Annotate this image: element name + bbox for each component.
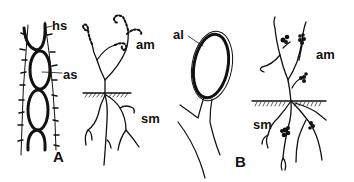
substrate-root-right-branch: [126, 130, 139, 147]
hypha-left-upper: [180, 97, 204, 118]
aerial-stem-right: [105, 30, 128, 80]
aleuriospore-oval-inner: [189, 32, 234, 101]
label-sm-b: sm: [253, 117, 272, 132]
mycelium-a: [83, 15, 141, 165]
label-sm-a: sm: [141, 111, 160, 126]
substrate-b-middle-branch: [283, 158, 286, 170]
label-hs: hs: [52, 18, 67, 33]
spore-chain: [18, 22, 62, 155]
spore-oval-2: [28, 90, 48, 130]
label-as: as: [63, 67, 77, 82]
as-leader-line: [42, 72, 62, 73]
hypha-left-lower: [178, 122, 205, 178]
label-am-b: am: [316, 47, 335, 62]
sheath-left-line: [21, 25, 28, 155]
spore-chain-middle: [115, 43, 126, 50]
spore-oval-1: [30, 51, 50, 89]
aerial-stem-b-right: [288, 22, 306, 80]
spore-chain-right: [127, 30, 141, 36]
panel-label-b: B: [235, 153, 246, 170]
spore-chain-top: [114, 15, 128, 30]
aleuriospore-b: [178, 28, 238, 178]
substrate-b-right-branch: [296, 120, 306, 162]
substrate-root-main: [104, 95, 107, 165]
diagram-canvas: hs as A am sm: [0, 0, 354, 182]
substrate-root-left-branch: [88, 130, 92, 140]
panel-label-a: A: [53, 148, 64, 165]
hypha-right: [210, 99, 220, 155]
spore-clusters-aerial: [281, 33, 308, 83]
mycelium-b: [252, 17, 326, 170]
substrate-root-left: [85, 95, 105, 145]
aerial-branch-middle: [97, 45, 115, 60]
spore-chain-left: [83, 24, 92, 44]
label-al: al: [173, 27, 184, 42]
spore-clusters-substrate: [280, 121, 315, 137]
bottom-spore-segment: [28, 130, 45, 150]
label-am-a: am: [136, 37, 155, 52]
aerial-branch-b-left: [260, 55, 280, 72]
substrate-root-small-branch: [107, 140, 111, 148]
substrate-b-far-right: [295, 103, 326, 120]
